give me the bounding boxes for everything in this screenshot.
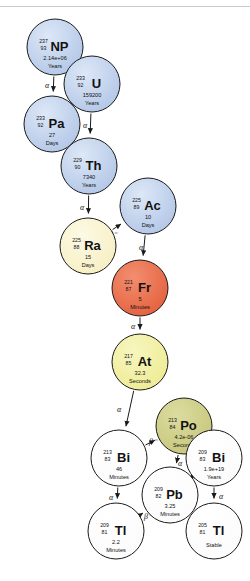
node-atomic-number: 85 <box>126 360 132 366</box>
node-element-symbol: Fr <box>138 280 151 295</box>
node-mass-number: 221 <box>124 279 133 285</box>
node-atomic-number: 81 <box>200 529 206 535</box>
node-halflife-value: 32.3 <box>135 370 146 376</box>
node-halflife-value: 7340 <box>83 174 95 180</box>
edge-label-th229-to-ra225: α <box>80 203 85 212</box>
node-element-symbol: Th <box>86 158 102 173</box>
nuclide-node-th229[interactable]: 22990Th7340Years <box>61 138 117 194</box>
node-element-symbol: Pa <box>49 116 66 131</box>
node-element-symbol: U <box>92 76 101 91</box>
decay-chain-diagram: αβ⁻ααβ⁻αααβ⁻ααβ⁻β⁻α 23793NP2.14e+06Years… <box>0 0 250 581</box>
node-halflife-value: 3.25 <box>165 503 176 509</box>
nuclide-node-bi209[interactable]: 20983Bi1.9e+19Years <box>186 430 242 486</box>
nuclide-node-ra225[interactable]: 22588Ra15Days <box>60 218 116 274</box>
node-halflife-unit: Minutes <box>160 511 180 517</box>
node-halflife-unit: Minutes <box>109 474 129 480</box>
node-halflife-unit: Stable <box>206 542 222 548</box>
node-halflife-unit: Days <box>46 140 59 146</box>
node-element-symbol: Ra <box>84 238 101 253</box>
edge-at217-to-bi213 <box>126 391 134 426</box>
node-element-symbol: Bi <box>212 450 225 465</box>
node-mass-number: 225 <box>72 237 81 243</box>
nuclide-node-tl209[interactable]: 20981Tl2.2Minutes <box>88 503 144 559</box>
nodes-layer: 23793NP2.14e+06Years23392U159200Years233… <box>24 19 242 559</box>
edge-label-np237-to-pa233: α <box>45 81 50 90</box>
edge-np237-to-pa233 <box>53 76 54 91</box>
node-mass-number: 233 <box>36 115 45 121</box>
node-halflife-value: 5 <box>138 296 141 302</box>
node-mass-number: 217 <box>124 353 133 359</box>
edge-ra225-to-ac225 <box>113 224 121 230</box>
node-mass-number: 225 <box>132 197 141 203</box>
node-mass-number: 205 <box>198 522 207 528</box>
node-element-symbol: Ac <box>144 198 161 213</box>
node-mass-number: 237 <box>39 38 48 44</box>
edge-tl209-to-pb209 <box>141 513 143 515</box>
node-element-symbol: At <box>138 354 152 369</box>
node-mass-number: 233 <box>76 75 85 81</box>
edge-label-po213-to-pb209: α <box>178 459 183 468</box>
node-atomic-number: 92 <box>78 82 84 88</box>
node-atomic-number: 89 <box>134 204 140 210</box>
nuclide-node-u233[interactable]: 23392U159200Years <box>64 56 120 112</box>
node-halflife-value: 2.14e+06 <box>43 55 67 61</box>
node-mass-number: 209 <box>198 449 207 455</box>
node-halflife-value: 10 <box>145 214 151 220</box>
node-halflife-value: 4.2e-06 <box>175 434 194 440</box>
node-element-symbol: Tl <box>213 523 225 538</box>
node-atomic-number: 90 <box>75 164 81 170</box>
node-halflife-value: 159200 <box>83 92 102 98</box>
node-element-symbol: Tl <box>115 523 127 538</box>
edge-label-bi213-to-tl209: α <box>109 493 114 502</box>
node-mass-number: 229 <box>73 157 82 163</box>
node-atomic-number: 81 <box>102 529 108 535</box>
node-halflife-value: 46 <box>116 466 122 472</box>
figure-caption <box>0 565 250 581</box>
node-atomic-number: 92 <box>38 122 44 128</box>
node-halflife-unit: Years <box>85 100 99 106</box>
edge-label-bi213-to-po213: β⁻ <box>148 437 158 446</box>
node-mass-number: 209 <box>154 486 163 492</box>
node-halflife-unit: Minutes <box>130 304 150 310</box>
node-halflife-value: 27 <box>49 132 55 138</box>
nuclide-node-fr221[interactable]: 22187Fr5Minutes <box>112 260 168 316</box>
node-halflife-value: 1.9e+19 <box>204 466 224 472</box>
nuclide-node-tl205[interactable]: 20581TlStable <box>186 503 242 559</box>
node-atomic-number: 93 <box>41 45 47 51</box>
nuclide-node-at217[interactable]: 21785At32.3Seconds <box>112 334 168 390</box>
node-element-symbol: Po <box>180 418 197 433</box>
edge-u233-to-th229 <box>90 113 91 133</box>
node-mass-number: 209 <box>100 522 109 528</box>
node-atomic-number: 88 <box>74 244 80 250</box>
edge-ac225-to-fr221 <box>143 235 145 255</box>
nuclide-node-pb209[interactable]: 20982Pb3.25Minutes <box>142 467 198 523</box>
node-atomic-number: 83 <box>105 456 111 462</box>
edge-label-fr221-to-at217: α <box>131 322 136 331</box>
nuclide-node-ac225[interactable]: 22589Ac10Days <box>120 178 176 234</box>
node-mass-number: 213 <box>168 417 177 423</box>
node-atomic-number: 83 <box>200 456 206 462</box>
edge-label-u233-to-th229: α <box>83 121 88 130</box>
nuclide-node-bi213[interactable]: 21383Bi46Minutes <box>91 430 147 486</box>
node-element-symbol: NP <box>50 39 68 54</box>
node-halflife-unit: Years <box>48 63 62 69</box>
node-halflife-unit: Days <box>82 262 95 268</box>
node-atomic-number: 87 <box>126 286 132 292</box>
edge-label-at217-to-bi213: α <box>117 405 122 414</box>
node-halflife-unit: Years <box>207 474 221 480</box>
node-halflife-unit: Minutes <box>106 547 126 553</box>
node-halflife-value: 2.2 <box>112 539 120 545</box>
node-mass-number: 213 <box>103 449 112 455</box>
edge-label-bi209-to-tl205: α <box>219 492 224 501</box>
node-atomic-number: 84 <box>170 424 176 430</box>
node-atomic-number: 82 <box>156 493 162 499</box>
node-halflife-unit: Days <box>142 222 155 228</box>
node-element-symbol: Pb <box>166 487 183 502</box>
node-element-symbol: Bi <box>117 450 130 465</box>
node-halflife-unit: Years <box>82 182 96 188</box>
node-halflife-value: 15 <box>85 254 91 260</box>
node-halflife-unit: Seconds <box>129 378 151 384</box>
